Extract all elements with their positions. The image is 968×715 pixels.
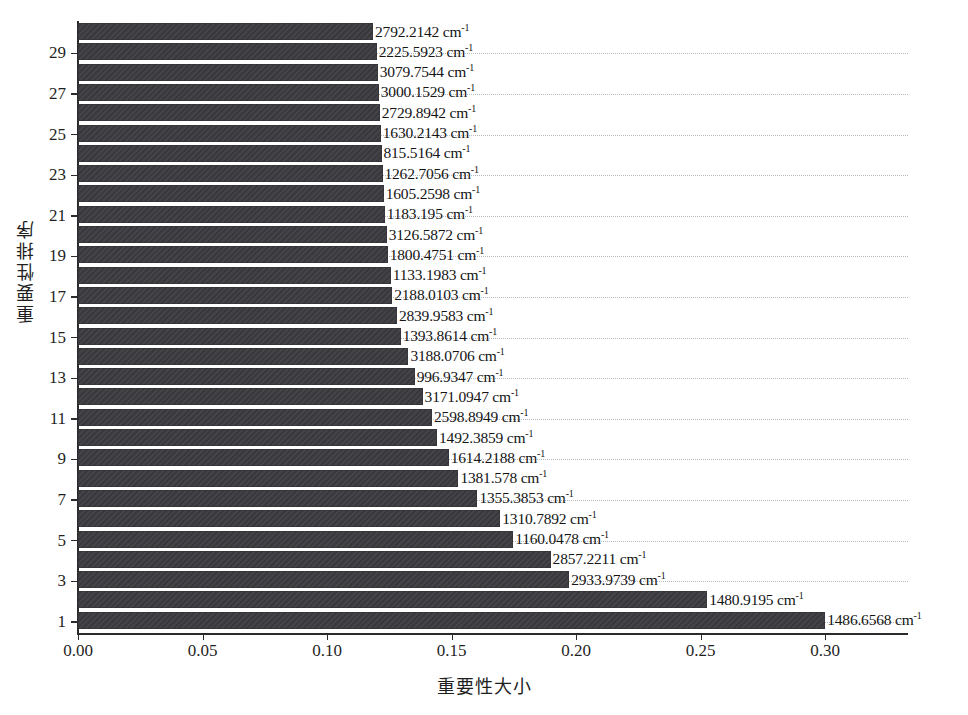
y-tick-29	[71, 53, 77, 54]
bar-value-label: 2792.2142 cm-1	[375, 24, 469, 40]
bar-rank-11	[78, 409, 432, 426]
y-tick-5	[71, 540, 77, 541]
y-tick-label-23: 23	[0, 165, 66, 185]
x-tick-0	[78, 633, 79, 640]
bar-value-label: 1262.7056 cm-1	[385, 166, 479, 182]
bar-rank-15	[78, 328, 401, 345]
x-tick-label-2: 0.10	[312, 641, 342, 661]
y-tick-9	[71, 459, 77, 460]
bar-value-label: 2839.9583 cm-1	[399, 308, 493, 324]
bar-rank-7	[78, 490, 477, 507]
bar-value-label: 1800.4751 cm-1	[390, 247, 484, 263]
y-tick-label-9: 9	[0, 449, 66, 469]
y-tick-17	[71, 296, 77, 297]
x-axis-title: 重要性大小	[0, 672, 968, 698]
bar-rank-16	[78, 307, 397, 324]
y-tick-13	[71, 378, 77, 379]
y-tick-label-27: 27	[0, 84, 66, 104]
bar-value-label: 1183.195 cm-1	[387, 206, 473, 222]
y-tick-11	[71, 418, 77, 419]
bar-rank-17	[78, 287, 392, 304]
bar-rank-6	[78, 510, 500, 527]
bar-rank-5	[78, 531, 513, 548]
bar-value-label: 2225.5923 cm-1	[379, 44, 473, 60]
y-tick-7	[71, 499, 77, 500]
bar-rank-1	[78, 612, 825, 629]
bar-rank-28	[78, 64, 378, 81]
x-tick-1	[203, 633, 204, 640]
bar-rank-27	[78, 84, 379, 101]
y-tick-25	[71, 134, 77, 135]
bar-value-label: 2857.2211 cm-1	[553, 551, 647, 567]
bar-value-label: 1605.2598 cm-1	[386, 186, 480, 202]
y-tick-27	[71, 93, 77, 94]
x-tick-4	[576, 633, 577, 640]
bar-rank-22	[78, 185, 384, 202]
bar-rank-29	[78, 43, 377, 60]
bar-value-label: 1630.2143 cm-1	[383, 125, 477, 141]
y-tick-label-5: 5	[0, 531, 66, 551]
bar-value-label: 3126.5872 cm-1	[389, 227, 483, 243]
bar-value-label: 3000.1529 cm-1	[381, 84, 475, 100]
y-tick-19	[71, 256, 77, 257]
bar-value-label: 2729.8942 cm-1	[382, 105, 476, 121]
x-tick-label-6: 0.30	[810, 641, 840, 661]
x-tick-label-4: 0.20	[561, 641, 591, 661]
bar-value-label: 1355.3853 cm-1	[479, 490, 573, 506]
y-tick-label-15: 15	[0, 328, 66, 348]
y-tick-label-11: 11	[0, 409, 66, 429]
y-tick-15	[71, 337, 77, 338]
bar-value-label: 1486.6568 cm-1	[827, 612, 921, 628]
y-tick-label-1: 1	[0, 612, 66, 632]
bar-rank-4	[78, 551, 551, 568]
x-tick-label-1: 0.05	[188, 641, 218, 661]
bar-rank-12	[78, 388, 423, 405]
x-tick-3	[452, 633, 453, 640]
bar-rank-14	[78, 348, 408, 365]
bar-value-label: 1393.8614 cm-1	[403, 328, 497, 344]
y-tick-label-29: 29	[0, 43, 66, 63]
x-tick-label-5: 0.25	[686, 641, 716, 661]
bar-value-label: 1614.2188 cm-1	[451, 450, 545, 466]
bar-rank-23	[78, 165, 383, 182]
bar-rank-10	[78, 429, 437, 446]
y-tick-23	[71, 175, 77, 176]
bar-value-label: 1480.9195 cm-1	[709, 592, 803, 608]
x-tick-label-3: 0.15	[437, 641, 467, 661]
x-tick-label-0: 0.00	[63, 641, 93, 661]
bar-rank-25	[78, 125, 381, 142]
bar-value-label: 3171.0947 cm-1	[425, 389, 519, 405]
bar-rank-2	[78, 591, 707, 608]
bar-value-label: 2598.8949 cm-1	[434, 409, 528, 425]
x-tick-5	[701, 633, 702, 640]
bar-value-label: 1160.0478 cm-1	[515, 531, 609, 547]
bar-rank-13	[78, 368, 415, 385]
bar-rank-26	[78, 104, 380, 121]
x-tick-6	[825, 633, 826, 640]
y-tick-1	[71, 621, 77, 622]
bar-rank-20	[78, 226, 387, 243]
y-tick-label-3: 3	[0, 571, 66, 591]
y-tick-label-25: 25	[0, 125, 66, 145]
bar-value-label: 1310.7892 cm-1	[502, 511, 596, 527]
bar-value-label: 815.5164 cm-1	[384, 145, 471, 161]
bar-rank-18	[78, 267, 391, 284]
bar-value-label: 1492.3859 cm-1	[439, 430, 533, 446]
y-tick-label-13: 13	[0, 368, 66, 388]
feature-importance-bar-chart: 0.000.050.100.150.200.250.30 13579111315…	[0, 0, 968, 715]
bar-value-label: 1381.578 cm-1	[460, 470, 547, 486]
bar-value-label: 3188.0706 cm-1	[410, 348, 504, 364]
bar-rank-24	[78, 145, 382, 162]
bar-rank-3	[78, 571, 569, 588]
bar-value-label: 1133.1983 cm-1	[393, 267, 487, 283]
bar-value-label: 996.9347 cm-1	[417, 369, 504, 385]
bar-rank-21	[78, 206, 385, 223]
bar-rank-8	[78, 470, 458, 487]
y-tick-3	[71, 581, 77, 582]
bar-value-label: 3079.7544 cm-1	[380, 64, 474, 80]
bar-value-label: 2188.0103 cm-1	[394, 287, 488, 303]
bar-rank-9	[78, 449, 449, 466]
x-tick-2	[327, 633, 328, 640]
bar-rank-19	[78, 246, 388, 263]
y-axis-title: 重要性排序	[14, 218, 40, 323]
